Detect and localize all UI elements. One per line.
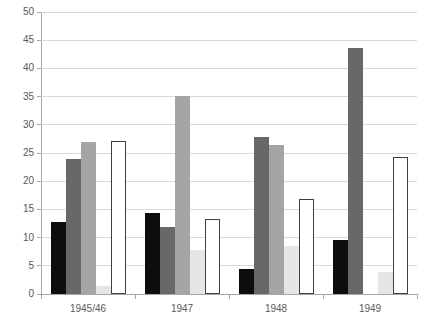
- y-tick-label-10: 10: [0, 233, 34, 243]
- bar-group-1947: [135, 12, 229, 294]
- bar-series-2-1945-46: [66, 159, 81, 294]
- y-tick-label-50: 50: [0, 7, 34, 17]
- x-tick-origin: [41, 295, 42, 299]
- bar-series-4-1949: [378, 272, 393, 294]
- cut-off-caption: [22, 323, 152, 332]
- y-tick-label-15: 15: [0, 204, 34, 214]
- bar-series-5-1945-46: [111, 141, 126, 294]
- x-tick-2: [323, 295, 324, 299]
- bar-group-inner: [135, 12, 229, 294]
- bar-series-5-1947: [205, 219, 220, 294]
- bar-series-3-1947: [175, 96, 190, 294]
- y-tick-label-35: 35: [0, 92, 34, 102]
- bar-group-inner: [41, 12, 135, 294]
- x-tick-label-1949: 1949: [323, 303, 417, 314]
- bar-series-3-1945-46: [81, 142, 96, 294]
- bar-group-inner: [323, 12, 417, 294]
- bar-series-3-1948: [269, 145, 284, 294]
- bar-chart: 05101520253035404550 1945/46194719481949: [0, 0, 423, 333]
- x-tick-3: [417, 295, 418, 299]
- bar-group-1948: [229, 12, 323, 294]
- bar-series-1-1949: [333, 240, 348, 294]
- bar-series-2-1949: [348, 48, 363, 294]
- y-tick-label-45: 45: [0, 35, 34, 45]
- x-tick-0: [135, 295, 136, 299]
- x-tick-label-1945-46: 1945/46: [41, 303, 135, 314]
- x-tick-label-1947: 1947: [135, 303, 229, 314]
- bar-group-inner: [229, 12, 323, 294]
- y-tick-label-0: 0: [0, 289, 34, 299]
- bar-series-4-1945-46: [96, 286, 111, 294]
- bar-series-4-1947: [190, 250, 205, 294]
- bar-series-4-1948: [284, 246, 299, 295]
- bar-group-1949: [323, 12, 417, 294]
- y-tick-label-20: 20: [0, 176, 34, 186]
- y-tick-label-25: 25: [0, 148, 34, 158]
- bar-series-1-1947: [145, 213, 160, 294]
- bar-series-2-1948: [254, 137, 269, 294]
- plot-area: [41, 12, 417, 294]
- bar-series-5-1948: [299, 199, 314, 294]
- bar-series-1-1948: [239, 269, 254, 294]
- y-tick-label-30: 30: [0, 120, 34, 130]
- y-tick-label-5: 5: [0, 261, 34, 271]
- bar-group-1945-46: [41, 12, 135, 294]
- x-tick-label-1948: 1948: [229, 303, 323, 314]
- bar-series-5-1949: [393, 157, 408, 294]
- x-tick-1: [229, 295, 230, 299]
- bar-series-1-1945-46: [51, 222, 66, 294]
- bar-series-2-1947: [160, 227, 175, 294]
- y-tick-label-40: 40: [0, 63, 34, 73]
